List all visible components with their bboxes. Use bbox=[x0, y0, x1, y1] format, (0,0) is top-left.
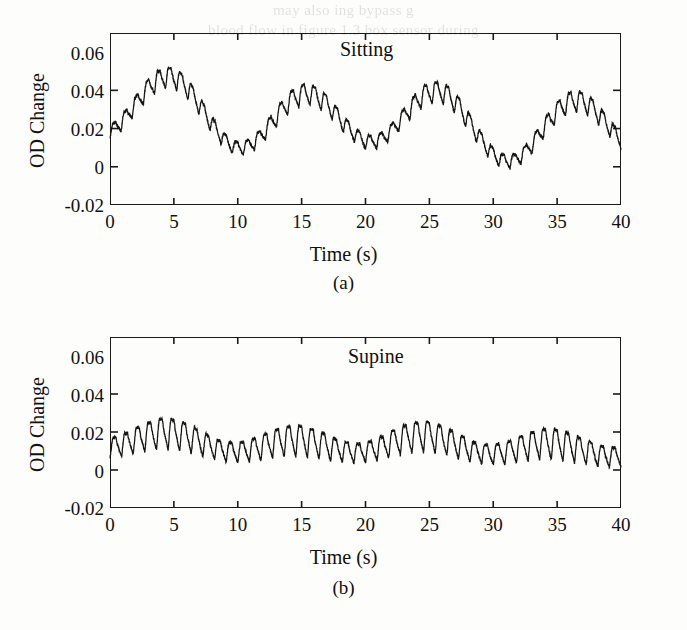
panel-caption-a: (a) bbox=[0, 272, 687, 294]
x-axis-label-a: Time (s) bbox=[0, 243, 687, 266]
x-axis-label-b: Time (s) bbox=[0, 546, 687, 569]
trace-b bbox=[110, 418, 621, 468]
x-tick-b-5: 25 bbox=[399, 515, 459, 534]
x-tick-b-6: 30 bbox=[463, 515, 523, 534]
panel-b-supine: OD Change 0.06 0.04 0.02 0 -0.02 Supine … bbox=[0, 305, 687, 610]
x-tick-b-0: 0 bbox=[80, 515, 140, 534]
x-tick-a-0: 0 bbox=[80, 212, 140, 231]
x-tick-a-6: 30 bbox=[463, 212, 523, 231]
x-tick-a-5: 25 bbox=[399, 212, 459, 231]
x-tick-a-8: 40 bbox=[591, 212, 651, 231]
x-tick-a-4: 20 bbox=[336, 212, 396, 231]
x-tick-b-2: 10 bbox=[208, 515, 268, 534]
series-annotation-sitting: Sitting bbox=[340, 38, 393, 61]
x-tick-a-7: 35 bbox=[527, 212, 587, 231]
x-tick-a-2: 10 bbox=[208, 212, 268, 231]
panel-a-sitting: OD Change 0.06 0.04 0.02 0 -0.02 Sitting… bbox=[0, 0, 687, 300]
x-tick-b-3: 15 bbox=[272, 515, 332, 534]
x-tick-b-7: 35 bbox=[527, 515, 587, 534]
trace-a bbox=[110, 67, 621, 170]
panel-caption-b: (b) bbox=[0, 577, 687, 599]
x-tick-b-4: 20 bbox=[336, 515, 396, 534]
x-tick-a-1: 5 bbox=[144, 212, 204, 231]
x-tick-a-3: 15 bbox=[272, 212, 332, 231]
series-annotation-supine: Supine bbox=[348, 345, 404, 368]
x-tick-b-1: 5 bbox=[144, 515, 204, 534]
x-tick-b-8: 40 bbox=[591, 515, 651, 534]
figure-page: may also ing bypass g blood flow in figu… bbox=[0, 0, 687, 630]
